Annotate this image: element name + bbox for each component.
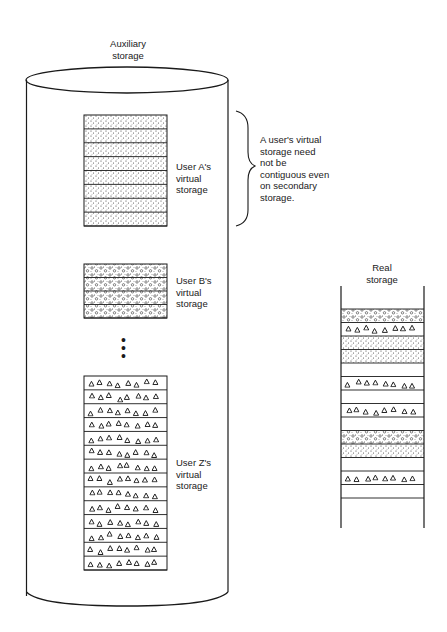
- real-storage-label: Real storage: [352, 262, 412, 285]
- storage-diagram: [0, 0, 447, 632]
- user-z-label: User Z's virtual storage: [176, 457, 211, 492]
- ellipsis-dots-icon: •••: [121, 336, 126, 360]
- user-b-label: User B's virtual storage: [176, 275, 212, 310]
- user-z-virtual-storage-block: [84, 376, 167, 570]
- contiguity-annotation: A user's virtual storage need not be con…: [260, 134, 329, 203]
- curly-brace-icon: [236, 111, 255, 226]
- auxiliary-storage-label: Auxiliary storage: [100, 38, 156, 61]
- real-storage-column: [341, 286, 424, 528]
- user-b-virtual-storage-block: [84, 264, 167, 318]
- user-a-label: User A's virtual storage: [176, 161, 211, 196]
- user-a-virtual-storage-block: [84, 115, 167, 226]
